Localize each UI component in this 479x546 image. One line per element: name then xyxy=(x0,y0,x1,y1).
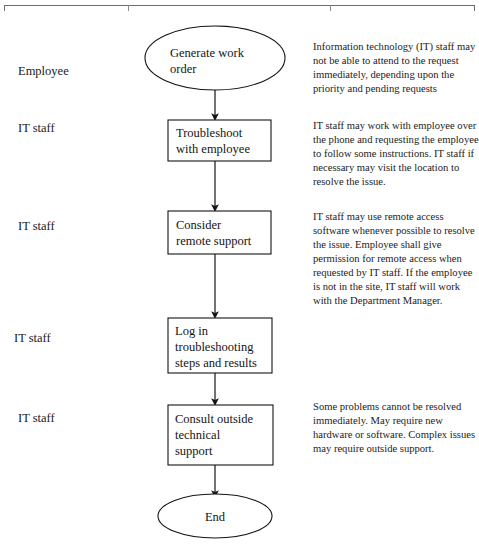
node-start-label: Generate work order xyxy=(170,45,280,77)
node-troubleshoot-label-line1: Troubleshoot xyxy=(176,125,270,141)
node-start-label-line1: Generate work xyxy=(170,45,280,61)
node-troubleshoot-label-line2: with employee xyxy=(176,141,270,157)
node-consult-outside-label-line3: support xyxy=(175,443,275,459)
node-log-steps-label-line1: Log in xyxy=(175,323,273,339)
node-log-steps-label-line3: steps and results xyxy=(175,355,273,371)
note-remote-support: IT staff may use remote access software … xyxy=(313,210,479,309)
flowchart-page: Employee IT staff IT staff IT staff IT s… xyxy=(0,0,479,546)
node-remote-support-label-line1: Consider xyxy=(176,217,270,233)
lane-label-employee: Employee xyxy=(18,64,69,78)
node-consult-outside-label-line2: technical xyxy=(175,427,275,443)
node-end-label: End xyxy=(165,509,265,525)
lane-label-it-staff-4: IT staff xyxy=(18,411,55,425)
node-log-steps-label: Log in troubleshooting steps and results xyxy=(175,323,273,371)
lane-label-it-staff-2: IT staff xyxy=(18,219,55,233)
lane-label-it-staff-1: IT staff xyxy=(18,121,55,135)
node-troubleshoot-label: Troubleshoot with employee xyxy=(176,125,270,157)
note-generate-work-order: Information technology (IT) staff may no… xyxy=(313,40,479,96)
node-consult-outside-label: Consult outside technical support xyxy=(175,411,275,459)
lane-label-it-staff-3: IT staff xyxy=(14,331,51,345)
node-log-steps-label-line2: troubleshooting xyxy=(175,339,273,355)
node-start-label-line2: order xyxy=(170,61,280,77)
note-troubleshoot: IT staff may work with employee over the… xyxy=(313,119,479,189)
note-consult-outside: Some problems cannot be resolved immedia… xyxy=(313,400,479,456)
node-remote-support-label-line2: remote support xyxy=(176,233,270,249)
node-consult-outside-label-line1: Consult outside xyxy=(175,411,275,427)
node-remote-support-label: Consider remote support xyxy=(176,217,270,249)
